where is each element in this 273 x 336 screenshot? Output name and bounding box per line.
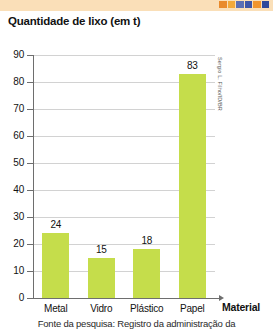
chart-title: Quantidade de lixo (em t) xyxy=(8,15,158,29)
banner-stripe-2 xyxy=(236,1,244,8)
banner-stripe-0 xyxy=(219,1,227,8)
bar-value-metal: 24 xyxy=(36,220,76,230)
banner-stripe-3 xyxy=(245,1,253,8)
image-credit: Sergio L. Filho/ID/BR xyxy=(212,57,226,177)
y-tick-50 xyxy=(27,163,33,164)
x-axis-category-label: Metal xyxy=(31,303,81,314)
x-axis-category-label: Vidro xyxy=(76,303,126,314)
y-axis-label: 40 xyxy=(0,185,24,195)
bar-metal xyxy=(42,233,69,298)
x-axis-title: Material xyxy=(222,301,260,313)
y-tick-40 xyxy=(27,190,33,191)
y-axis-label: 70 xyxy=(0,104,24,114)
banner-stripe-4 xyxy=(253,1,261,8)
y-tick-0 xyxy=(27,298,33,299)
bar-plástico xyxy=(133,249,160,298)
x-axis-line xyxy=(33,298,219,299)
banner-stripe-5 xyxy=(262,1,270,8)
y-tick-10 xyxy=(27,271,33,272)
bar-vidro xyxy=(88,258,115,299)
y-tick-60 xyxy=(27,136,33,137)
bar-value-plástico: 18 xyxy=(127,236,167,246)
y-tick-80 xyxy=(27,82,33,83)
y-axis-label: 50 xyxy=(0,158,24,168)
y-axis-label: 60 xyxy=(0,131,24,141)
y-axis-label: 20 xyxy=(0,239,24,249)
y-tick-30 xyxy=(27,217,33,218)
y-axis-label: 80 xyxy=(0,77,24,87)
figure-caption: Fonte da pesquisa: Registro da administr… xyxy=(0,318,273,329)
chart-figure: Quantidade de lixo (em t) Material Sergi… xyxy=(0,11,273,336)
y-axis-label: 30 xyxy=(0,212,24,222)
y-axis-label: 10 xyxy=(0,266,24,276)
banner-stripe-group xyxy=(219,1,269,8)
plot-area xyxy=(33,55,215,298)
y-tick-90 xyxy=(27,55,33,56)
y-axis-line xyxy=(33,55,34,299)
bar-value-vidro: 15 xyxy=(81,245,121,255)
y-axis-label: 0 xyxy=(0,293,24,303)
x-axis-category-label: Papel xyxy=(167,303,217,314)
y-tick-20 xyxy=(27,244,33,245)
top-decorative-banner xyxy=(0,0,273,11)
banner-stripe-1 xyxy=(228,1,236,8)
x-axis-category-label: Plástico xyxy=(122,303,172,314)
bar-papel xyxy=(179,74,206,298)
gridline-90 xyxy=(33,55,215,56)
image-credit-text: Sergio L. Filho/ID/BR xyxy=(217,57,223,111)
bar-value-papel: 83 xyxy=(172,61,212,71)
y-axis-label: 90 xyxy=(0,50,24,60)
y-tick-70 xyxy=(27,109,33,110)
